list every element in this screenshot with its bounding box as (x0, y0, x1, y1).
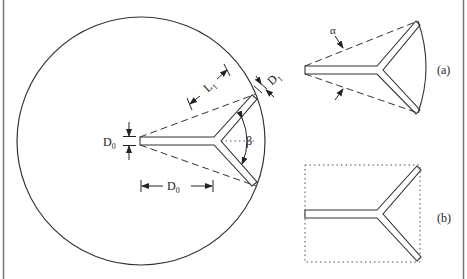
panel-a-y-channel (305, 21, 420, 114)
panel-a-alpha-arrow-top (335, 36, 343, 48)
stem-length-label: D0 (167, 179, 180, 195)
y-junction-diagram: β D0 D0 L1 D1 α (a) (0, 0, 467, 279)
l1-tick-start (187, 98, 192, 110)
alpha-label: α (330, 24, 336, 36)
l1-arrow-end (217, 70, 227, 79)
branch-width-label: D1 (264, 69, 284, 89)
panel-b: (b) (305, 165, 451, 262)
stem-width-label: D0 (103, 135, 116, 151)
main-diagram: β D0 D0 L1 D1 (17, 17, 284, 265)
panel-a-alpha-arrow-bottom (335, 89, 343, 100)
branch-length-label: L1 (200, 77, 219, 96)
panel-a-label: (a) (437, 63, 450, 77)
l1-arrow-start (190, 96, 200, 104)
panel-b-y-channel (305, 166, 421, 261)
d1-arrow-b (266, 90, 274, 97)
beta-label: β (246, 134, 252, 148)
d1-arrow-a (256, 76, 261, 84)
panel-a-arc (418, 21, 426, 113)
panel-b-label: (b) (437, 211, 451, 225)
panel-a: α (a) (305, 21, 450, 114)
